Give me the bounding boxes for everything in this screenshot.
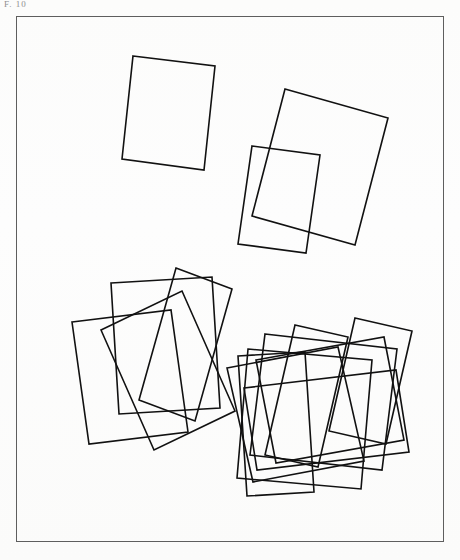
rect-3-a [111, 277, 220, 414]
cluster-8-rects [227, 318, 412, 496]
cluster-4-rects [72, 268, 235, 450]
rect-2-a [252, 89, 388, 245]
rect-1-a [122, 56, 215, 170]
rect-3-c [139, 268, 232, 421]
cluster-2-rects [238, 89, 388, 253]
figure-page: F. 10 [0, 0, 460, 560]
rectangles-figure [0, 0, 460, 560]
rect-4-g [244, 370, 409, 470]
rect-2-b [238, 146, 320, 253]
rect-3-b [72, 310, 188, 444]
cluster-1-rect [122, 56, 215, 170]
